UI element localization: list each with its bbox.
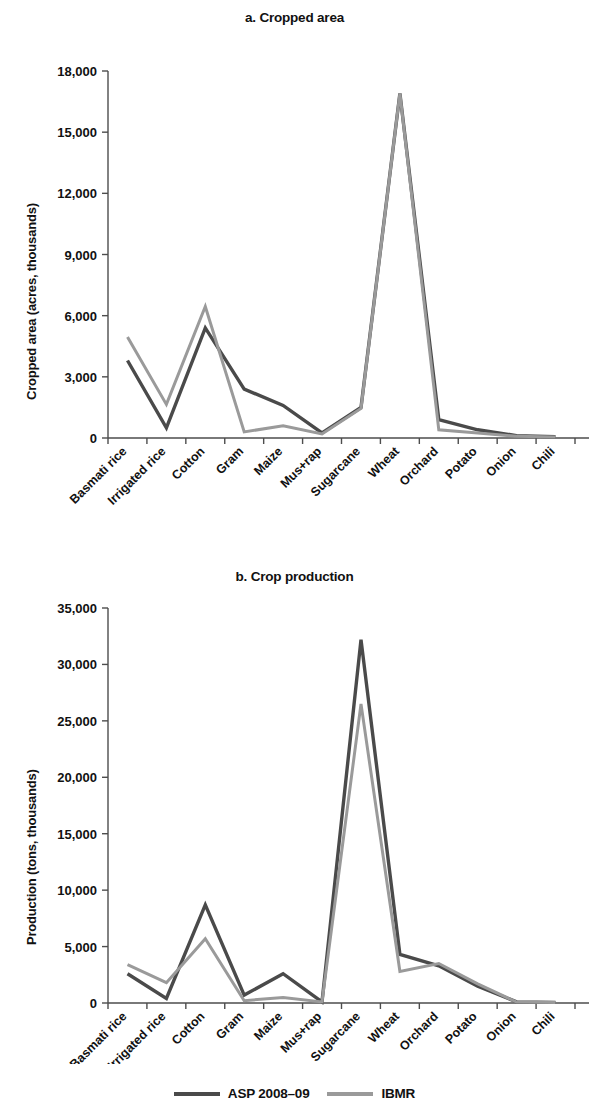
x-axis-category-label: Wheat — [366, 444, 403, 481]
x-axis-category-label: Onion — [483, 444, 518, 479]
y-axis-tick-label: 0 — [90, 996, 97, 1011]
y-axis-tick-label: 18,000 — [57, 64, 97, 79]
y-axis-tick-label: 35,000 — [57, 601, 97, 616]
y-axis-tick-label: 20,000 — [57, 770, 97, 785]
series-line-asp — [128, 93, 556, 436]
y-axis-tick-label: 9,000 — [64, 248, 97, 263]
y-axis-tick-label: 5,000 — [64, 940, 97, 955]
chart-b-plot-area: 05,00010,00015,00020,00025,00030,00035,0… — [0, 584, 589, 1064]
legend-swatch-asp — [174, 1092, 220, 1096]
chart-a-svg: 03,0006,0009,00012,00015,00018,000Basmat… — [0, 25, 589, 545]
legend-swatch-ibmr — [327, 1092, 373, 1096]
chart-panel-crop-production: b. Crop production Production (tons, tho… — [0, 555, 589, 1075]
legend-item-ibmr: IBMR — [327, 1086, 415, 1101]
legend-label-ibmr: IBMR — [381, 1086, 415, 1101]
chart-b-title: b. Crop production — [0, 555, 589, 584]
chart-legend: ASP 2008–09 IBMR — [0, 1086, 589, 1101]
y-axis-tick-label: 30,000 — [57, 657, 97, 672]
legend-item-asp: ASP 2008–09 — [174, 1086, 310, 1101]
y-axis-tick-label: 6,000 — [64, 309, 97, 324]
series-line-asp — [128, 640, 556, 1003]
x-axis-category-label: Onion — [483, 1009, 518, 1044]
x-axis-category-label: Gram — [213, 444, 246, 477]
chart-a-title: a. Cropped area — [0, 0, 589, 25]
x-axis-category-label: Potato — [442, 444, 480, 482]
y-axis-tick-label: 15,000 — [57, 827, 97, 842]
chart-a-plot-area: 03,0006,0009,00012,00015,00018,000Basmat… — [0, 25, 589, 545]
y-axis-tick-label: 3,000 — [64, 370, 97, 385]
chart-panel-cropped-area: a. Cropped area Cropped area (acres, tho… — [0, 0, 589, 555]
x-axis-category-label: Cotton — [169, 1009, 207, 1047]
x-axis-category-label: Potato — [442, 1009, 480, 1047]
legend-label-asp: ASP 2008–09 — [228, 1086, 310, 1101]
series-line-ibmr — [128, 93, 556, 437]
x-axis-category-label: Chili — [529, 1009, 558, 1038]
y-axis-tick-label: 15,000 — [57, 125, 97, 140]
x-axis-category-label: Orchard — [397, 444, 441, 488]
x-axis-category-label: Maize — [251, 1009, 285, 1043]
y-axis-tick-label: 12,000 — [57, 186, 97, 201]
x-axis-category-label: Chili — [529, 444, 558, 473]
y-axis-tick-label: 10,000 — [57, 883, 97, 898]
x-axis-category-label: Cotton — [169, 444, 207, 482]
x-axis-category-label: Orchard — [397, 1009, 441, 1053]
y-axis-tick-label: 25,000 — [57, 714, 97, 729]
x-axis-category-label: Maize — [251, 444, 285, 478]
x-axis-category-label: Wheat — [366, 1009, 403, 1046]
y-axis-tick-label: 0 — [90, 431, 97, 446]
x-axis-category-label: Gram — [213, 1009, 246, 1042]
chart-b-svg: 05,00010,00015,00020,00025,00030,00035,0… — [0, 584, 589, 1064]
series-line-ibmr — [128, 704, 556, 1003]
